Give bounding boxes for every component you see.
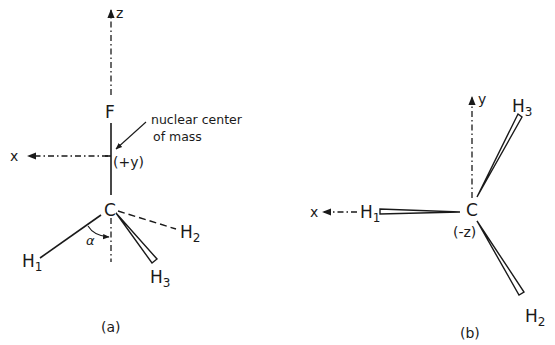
atom-f-label: F — [105, 102, 115, 122]
y-direction-note: (+y) — [113, 154, 144, 170]
y-axis-label: y — [478, 91, 486, 107]
atom-h2-label: H2 — [180, 222, 200, 245]
annotation-line-2: of mass — [153, 129, 202, 144]
panel-a: z F x (+y) nuclear center of mass C H1 H… — [10, 5, 243, 335]
panel-b: y C (-z) H1 x H3 H2 (b) — [310, 91, 545, 341]
z-direction-note: (-z) — [453, 224, 476, 240]
annotation-line-1: nuclear center — [151, 112, 243, 127]
atom-h3-label: H3 — [512, 96, 532, 119]
panel-b-caption: (b) — [460, 325, 480, 341]
angle-alpha-label: α — [86, 233, 95, 248]
bond-c-h2-wedge — [477, 221, 524, 295]
atom-c-label: C — [104, 200, 116, 220]
z-axis-label: z — [116, 5, 123, 21]
atom-h2-label: H2 — [525, 306, 545, 329]
atom-h1-label: H1 — [22, 251, 42, 274]
bond-c-h3-wedge — [477, 114, 522, 197]
bond-c-h1-wedge — [380, 209, 460, 214]
atom-c-label: C — [466, 200, 478, 220]
x-axis-label: x — [310, 204, 318, 220]
x-axis-label: x — [10, 148, 18, 164]
atom-h3-label: H3 — [150, 267, 170, 290]
annotation-arrow — [116, 122, 146, 149]
atom-h1-label: H1 — [360, 202, 380, 225]
panel-a-caption: (a) — [101, 319, 121, 335]
molecule-diagram: z F x (+y) nuclear center of mass C H1 H… — [0, 0, 555, 345]
